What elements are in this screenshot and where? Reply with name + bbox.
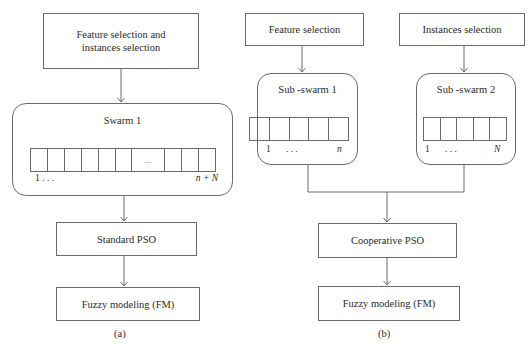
b-subswarm-1-start-label: 1 [266, 144, 271, 154]
b-feature-selection-label: Feature selection [269, 23, 340, 36]
b-instances-selection-box: Instances selection [399, 13, 525, 46]
a-feature-instances-selection-box: Feature selection and instances selectio… [43, 13, 199, 69]
b-cell [474, 118, 491, 140]
a-index-start-label: 1 . . . [35, 173, 54, 183]
b-subswarm-2-end-label: N [494, 144, 500, 154]
a-cell [116, 149, 133, 171]
a-cell [182, 149, 199, 171]
b-cell [329, 118, 348, 140]
b-cell [441, 118, 458, 140]
b-cell [457, 118, 474, 140]
a-swarm-title: Swarm 1 [13, 115, 232, 126]
a-index-end-label: n + N [196, 173, 218, 183]
a-cell-ellipsis: ... [132, 149, 165, 171]
b-subswarm-2-dots: . . . [445, 144, 457, 154]
b-subswarm-2-start-label: 1 [425, 144, 430, 154]
b-cooperative-pso-label: Cooperative PSO [351, 234, 424, 247]
a-cell [99, 149, 116, 171]
b-subswarm-2-title: Sub -swarm 2 [417, 84, 515, 95]
b-cell [270, 118, 290, 140]
a-input-line2: instances selection [76, 41, 165, 54]
a-fuzzy-modeling-box: Fuzzy modeling (FM) [56, 287, 200, 321]
b-cell [290, 118, 310, 140]
b-cell [490, 118, 506, 140]
b-subswarm-1-container: Sub -swarm 1 1 . . . n [257, 73, 358, 165]
a-cell [199, 149, 215, 171]
b-subswarm-2-strip [423, 117, 507, 141]
a-cell [31, 149, 48, 171]
b-feature-selection-box: Feature selection [245, 13, 364, 46]
b-cell [424, 118, 441, 140]
b-subswarm-2-container: Sub -swarm 2 1 . . . N [416, 73, 516, 165]
b-instances-selection-label: Instances selection [422, 23, 501, 36]
a-cell [82, 149, 99, 171]
b-cooperative-pso-box: Cooperative PSO [318, 223, 457, 258]
b-subswarm-1-dots: . . . [286, 144, 298, 154]
b-cell [250, 118, 270, 140]
b-fuzzy-modeling-label: Fuzzy modeling (FM) [343, 297, 436, 310]
a-swarm-1-container: Swarm 1 ... 1 . . . n + N [12, 103, 233, 196]
a-input-line1: Feature selection and [76, 28, 165, 41]
caption-a: (a) [114, 328, 126, 339]
caption-b: (b) [378, 328, 390, 339]
a-cell [65, 149, 82, 171]
b-cell [309, 118, 329, 140]
a-cell [165, 149, 182, 171]
b-subswarm-1-strip [249, 117, 349, 141]
b-subswarm-1-end-label: n [337, 144, 342, 154]
a-fuzzy-modeling-label: Fuzzy modeling (FM) [82, 298, 175, 311]
b-subswarm-1-title: Sub -swarm 1 [258, 84, 357, 95]
b-fuzzy-modeling-box: Fuzzy modeling (FM) [318, 286, 460, 321]
a-particle-strip: ... [30, 148, 216, 172]
a-standard-pso-box: Standard PSO [56, 222, 197, 256]
a-standard-pso-label: Standard PSO [97, 233, 156, 246]
a-cell [48, 149, 65, 171]
